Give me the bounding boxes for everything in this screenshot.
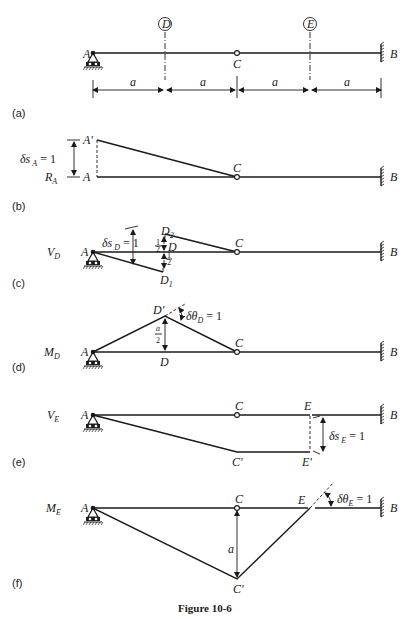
span-label: a xyxy=(200,75,206,89)
point-d-prime-label: D' xyxy=(152,303,165,317)
fixed-support-icon xyxy=(381,341,384,361)
svg-text:2: 2 xyxy=(156,336,160,345)
point-e-label: E xyxy=(303,399,312,413)
point-c-label: C xyxy=(235,336,244,350)
section-d-label: D xyxy=(161,17,171,31)
panel-label-d: (d) xyxy=(12,361,25,373)
point-b-label: B xyxy=(390,501,398,515)
height-label: a xyxy=(228,542,234,556)
hinge-c-icon xyxy=(235,413,240,418)
hinge-c-icon xyxy=(235,175,240,180)
span-label: a xyxy=(130,75,136,89)
point-a-label: A xyxy=(80,408,89,422)
influence-line-figure: a a a a D E A C B (a) δsA= 1 RA A A' C B… xyxy=(0,0,410,619)
hinge-c-icon xyxy=(235,506,240,511)
displacement-label: δsE= 1 xyxy=(329,429,365,445)
point-d1-label: D1 xyxy=(159,273,173,289)
section-e-label: E xyxy=(306,17,315,31)
point-a-label: A xyxy=(80,501,89,515)
influence-line-vd-left xyxy=(93,252,163,272)
rotation-label: δθE= 1 xyxy=(337,492,372,508)
point-c-prime-label: C' xyxy=(232,455,243,469)
span-label: a xyxy=(344,75,350,89)
span-label: a xyxy=(272,75,278,89)
panel-label-e: (e) xyxy=(12,456,25,468)
displacement-label: δsD= 1 xyxy=(102,236,139,252)
hinge-c-icon xyxy=(235,250,240,255)
influence-line-ra xyxy=(97,140,237,177)
point-c-label: C xyxy=(233,161,242,175)
panel-d: a 2 δθD= 1 D' D A C B MD (d) xyxy=(12,303,398,373)
fixed-support-icon xyxy=(381,241,384,261)
point-b-label: B xyxy=(390,408,398,422)
hinge-c-icon xyxy=(235,350,240,355)
point-a-prime-label: A' xyxy=(82,133,93,147)
point-e-label: E xyxy=(297,493,306,507)
panel-label-a: (a) xyxy=(12,107,25,119)
quantity-label: ME xyxy=(45,501,61,517)
point-c-label: C xyxy=(235,399,244,413)
fixed-support-icon xyxy=(381,497,384,517)
point-b-label: B xyxy=(390,170,398,184)
point-c-label: C xyxy=(235,492,244,506)
quantity-label: VE xyxy=(47,408,59,424)
rotation-label: δθD= 1 xyxy=(186,309,222,325)
quantity-label: MD xyxy=(43,345,60,361)
panel-f: a δθE= 1 C C' E A B ME (f) xyxy=(12,482,398,596)
quantity-label: VD xyxy=(47,245,60,261)
influence-line-ve xyxy=(93,415,310,452)
point-e-prime-label: E' xyxy=(301,455,312,469)
fixed-support-icon xyxy=(381,404,384,424)
point-a-label: A xyxy=(80,345,89,359)
fixed-support-icon xyxy=(381,166,384,186)
reaction-label: RA xyxy=(44,170,57,186)
point-a-label: A xyxy=(82,47,91,61)
point-b-label: B xyxy=(390,47,398,61)
point-b-label: B xyxy=(390,345,398,359)
point-c-prime-label: C' xyxy=(233,582,244,596)
point-d2-label: D2 xyxy=(160,224,174,240)
point-c-label: C xyxy=(235,236,244,250)
svg-text:2: 2 xyxy=(167,258,171,267)
svg-text:a: a xyxy=(156,324,160,333)
point-d-label: D xyxy=(159,355,169,369)
point-c-label: C xyxy=(233,57,242,71)
panel-label-b: (b) xyxy=(12,200,25,212)
point-a-label: A xyxy=(80,245,89,259)
point-a-label: A xyxy=(82,170,91,184)
point-d-label: D xyxy=(167,240,177,254)
displacement-label: δsA= 1 xyxy=(20,152,56,168)
svg-text:2: 2 xyxy=(156,245,160,254)
panel-c: 1 2 1 2 δsD= 1 D D2 D1 A C B VD (c) xyxy=(12,224,398,289)
tangent-extension xyxy=(310,482,334,508)
panel-e: δsE= 1 C C' E E' A B VE (e) xyxy=(12,399,398,469)
panel-label-c: (c) xyxy=(12,277,25,289)
panel-b: δsA= 1 RA A A' C B (b) xyxy=(12,133,398,212)
panel-a: a a a a D E A C B (a) xyxy=(12,17,398,119)
point-b-label: B xyxy=(390,245,398,259)
figure-caption: Figure 10-6 xyxy=(178,602,232,614)
hinge-c-icon xyxy=(235,51,240,56)
panel-label-f: (f) xyxy=(12,577,22,589)
fixed-support-icon xyxy=(381,42,384,62)
influence-line-me xyxy=(93,508,310,579)
